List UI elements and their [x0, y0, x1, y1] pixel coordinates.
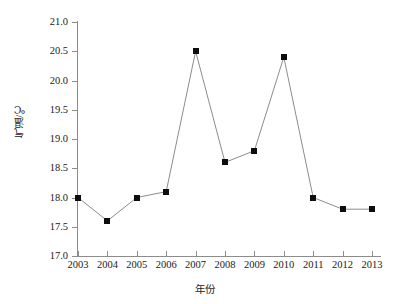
y-axis-tick [72, 51, 77, 52]
x-axis-tick [137, 251, 138, 256]
y-axis-tick-label: 18.0 [8, 193, 68, 204]
y-axis-tick-label: 18.5 [8, 163, 68, 174]
data-point-marker [369, 206, 375, 212]
x-axis-tick [313, 251, 314, 256]
data-point-marker [222, 159, 228, 165]
x-axis-tick [372, 251, 373, 256]
x-axis-tick [225, 251, 226, 256]
y-axis-line [77, 21, 78, 257]
y-axis-tick-label: 20.0 [8, 76, 68, 87]
data-point-marker [134, 195, 140, 201]
x-axis-tick [284, 251, 285, 256]
data-point-marker [310, 195, 316, 201]
y-axis-tick [72, 110, 77, 111]
x-axis-line [77, 256, 381, 257]
data-point-marker [163, 189, 169, 195]
data-point-marker [251, 148, 257, 154]
x-axis-tick-label: 2013 [352, 260, 392, 271]
y-axis-tick [72, 81, 77, 82]
y-axis-tick [72, 22, 77, 23]
y-axis-title: 气温/℃ [12, 104, 27, 138]
y-axis-tick-label: 21.0 [8, 17, 68, 28]
data-point-marker [75, 195, 81, 201]
data-point-marker [281, 54, 287, 60]
x-axis-tick [343, 251, 344, 256]
x-axis-title: 年份 [0, 281, 409, 296]
y-axis-tick [72, 168, 77, 169]
x-axis-tick [78, 251, 79, 256]
data-point-marker [340, 206, 346, 212]
x-axis-tick [254, 251, 255, 256]
x-axis-tick [166, 251, 167, 256]
y-axis-tick [72, 227, 77, 228]
x-axis-tick [196, 251, 197, 256]
data-point-marker [193, 48, 199, 54]
temperature-line-chart: 21.020.520.019.519.018.518.017.517.0 气温/… [0, 0, 409, 304]
y-axis-tick-label: 17.5 [8, 222, 68, 233]
x-axis-tick [107, 251, 108, 256]
y-axis-tick [72, 139, 77, 140]
data-point-marker [104, 218, 110, 224]
y-axis-tick-label: 20.5 [8, 46, 68, 57]
